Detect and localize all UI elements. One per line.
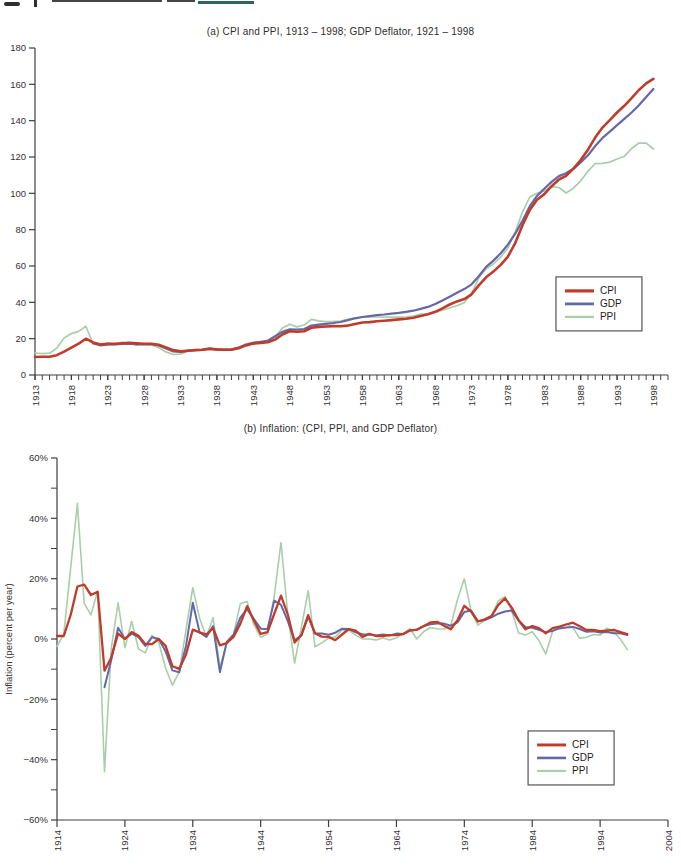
legend-label-ppi: PPI	[600, 311, 616, 322]
legend: CPIGDPPPI	[528, 731, 614, 785]
series-cpi-line	[57, 585, 627, 671]
svg-text:20%: 20%	[29, 573, 49, 584]
legend-label-cpi: CPI	[572, 739, 589, 750]
svg-text:1988: 1988	[575, 385, 586, 406]
svg-text:1933: 1933	[175, 385, 186, 406]
y-tick-labels: 020406080100120140160180	[10, 42, 26, 380]
caption-fragment	[52, 0, 162, 2]
svg-text:1964: 1964	[391, 830, 402, 851]
svg-text:1978: 1978	[502, 385, 513, 406]
svg-text:1924: 1924	[119, 830, 130, 851]
svg-text:1914: 1914	[52, 830, 63, 851]
svg-text:0: 0	[21, 369, 26, 380]
svg-text:1994: 1994	[595, 830, 606, 851]
svg-text:60%: 60%	[29, 452, 49, 463]
cropped-caption-remnant	[0, 0, 681, 8]
svg-text:140: 140	[10, 115, 26, 126]
svg-text:1938: 1938	[211, 385, 222, 406]
svg-text:40: 40	[15, 297, 26, 308]
y-tick-labels: −60%−40%−20%0%20%40%60%	[23, 452, 48, 825]
svg-text:2004: 2004	[663, 830, 674, 851]
svg-text:1913: 1913	[30, 385, 41, 406]
svg-text:−40%: −40%	[23, 754, 48, 765]
x-tick-labels: 1913191819231928193319381943194819531958…	[30, 385, 659, 406]
y-axis-title: Inflation (percent per year)	[3, 583, 14, 694]
svg-text:100: 100	[10, 188, 26, 199]
legend-label-ppi: PPI	[572, 765, 588, 776]
svg-text:40%: 40%	[29, 513, 49, 524]
svg-text:160: 160	[10, 79, 26, 90]
legend-label-cpi: CPI	[600, 285, 617, 296]
svg-text:1974: 1974	[459, 830, 470, 851]
svg-text:−20%: −20%	[23, 694, 48, 705]
svg-text:1923: 1923	[102, 385, 113, 406]
svg-text:1943: 1943	[248, 385, 259, 406]
svg-text:−60%: −60%	[23, 814, 48, 825]
caption-fragment	[34, 0, 37, 7]
panel-b-title: (b) Inflation: (CPI, PPI, and GDP Deflat…	[0, 423, 681, 434]
svg-text:1983: 1983	[539, 385, 550, 406]
panel-a-chart: 0204060801001201401601801913191819231928…	[0, 40, 681, 422]
caption-fragment	[4, 2, 20, 6]
svg-text:80: 80	[15, 224, 26, 235]
svg-text:1954: 1954	[323, 830, 334, 851]
svg-text:1984: 1984	[527, 830, 538, 851]
caption-fragment	[198, 1, 254, 4]
svg-text:1918: 1918	[66, 385, 77, 406]
svg-text:1953: 1953	[321, 385, 332, 406]
svg-text:120: 120	[10, 151, 26, 162]
legend: CPIGDPPPI	[556, 277, 642, 331]
panel-a-title: (a) CPI and PPI, 1913 – 1998; GDP Deflat…	[0, 26, 681, 37]
caption-fragment	[167, 0, 195, 2]
svg-text:1934: 1934	[187, 830, 198, 851]
svg-text:180: 180	[10, 42, 26, 53]
x-tick-labels: 1914192419341944195419641974198419942004	[52, 830, 674, 851]
svg-text:1948: 1948	[284, 385, 295, 406]
legend-label-gdp: GDP	[572, 752, 594, 763]
svg-text:1973: 1973	[466, 385, 477, 406]
svg-text:1963: 1963	[393, 385, 404, 406]
svg-text:1958: 1958	[357, 385, 368, 406]
svg-text:1993: 1993	[612, 385, 623, 406]
svg-text:20: 20	[15, 333, 26, 344]
panel-b-chart: −60%−40%−20%0%20%40%60%19141924193419441…	[0, 438, 681, 865]
svg-text:1998: 1998	[648, 385, 659, 406]
svg-text:1968: 1968	[430, 385, 441, 406]
svg-text:1944: 1944	[255, 830, 266, 851]
svg-text:0%: 0%	[34, 633, 48, 644]
legend-label-gdp: GDP	[600, 298, 622, 309]
svg-text:1928: 1928	[139, 385, 150, 406]
svg-text:60: 60	[15, 260, 26, 271]
